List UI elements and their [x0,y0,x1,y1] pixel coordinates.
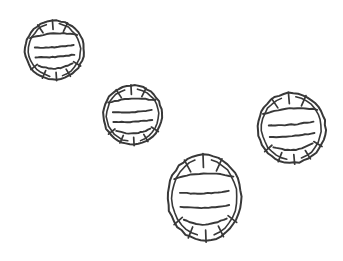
ball-stripe-4-2 [180,205,229,209]
ball-stripe-3-1 [269,122,314,127]
sketch-canvas [0,0,343,261]
striped-ball-1 [23,18,86,83]
ball-arc-top-2 [108,97,155,102]
striped-ball-4 [166,152,243,243]
ball-arc-top-1 [30,32,77,39]
ball-stripe-3-2 [270,133,315,138]
ball-outline-2 [102,84,164,146]
ball-arc-top-3 [263,106,318,115]
ball-tick-top-1-2 [52,20,53,29]
ball-tick-bottom-3-3 [294,154,295,164]
ball-tick-top-3-2 [288,92,289,103]
ball-stripe-4-1 [180,191,229,195]
ball-stripe-1-2 [35,55,74,59]
ball-arc-top-4 [174,172,233,179]
striped-ball-2 [102,83,164,147]
ball-stripe-1-1 [35,45,74,49]
striped-ball-3 [255,89,329,167]
ball-stripe-2-2 [113,120,152,123]
ball-arc-bottom-2 [116,129,150,135]
ball-tick-bottom-1-3 [56,72,57,80]
ball-stripe-2-1 [113,110,152,113]
ball-arc-bottom-1 [38,63,72,70]
sketch-drawing [0,0,343,261]
ball-outline-4 [166,153,243,242]
ball-arc-bottom-3 [273,143,313,151]
ball-outline-1 [23,19,86,82]
ball-outline-3 [255,90,329,166]
ball-arc-bottom-4 [184,218,227,225]
